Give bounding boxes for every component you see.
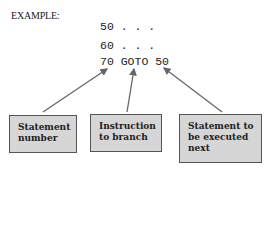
arrow-statement-number: [43, 69, 107, 112]
arrow-target: [164, 68, 222, 112]
label-box-target-statement: Statement to be executed next: [179, 114, 262, 163]
label-line: to branch: [99, 132, 161, 143]
label-line: be executed: [188, 132, 261, 143]
label-line: number: [18, 133, 76, 144]
label-line: next: [188, 143, 261, 154]
label-line: Statement to: [188, 121, 261, 132]
arrow-instruction: [127, 69, 134, 112]
label-line: Statement: [18, 122, 76, 133]
label-box-instruction: Instruction to branch: [90, 114, 162, 152]
label-box-statement-number: Statement number: [9, 115, 77, 153]
label-line: Instruction: [99, 121, 161, 132]
